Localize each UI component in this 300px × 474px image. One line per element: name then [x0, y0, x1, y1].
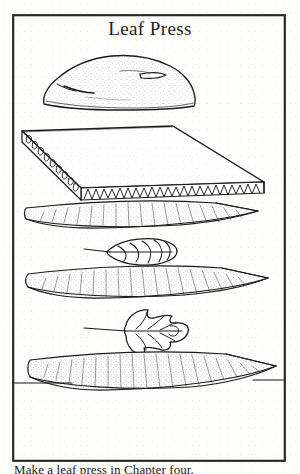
leaf-press-exploded-diagram	[0, 0, 300, 474]
weight-rock-part	[44, 55, 196, 110]
page-background: Leaf Press	[0, 0, 300, 474]
blotter-sheet-base-part	[28, 352, 276, 390]
corrugated-sheet-part	[22, 126, 264, 200]
blotter-sheet-mid-part	[26, 266, 268, 298]
figure-caption: Make a leaf press in Chapter four.	[14, 463, 294, 474]
leaf-specimen-oval-part	[84, 239, 177, 265]
blotter-sheet-top-part	[25, 201, 259, 228]
leaf-specimen-lobed-part	[84, 310, 188, 354]
